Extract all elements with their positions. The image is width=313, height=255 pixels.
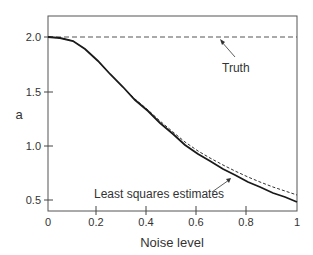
x-tick-1: 1 bbox=[294, 216, 300, 228]
x-tick-0.4: 0.4 bbox=[138, 216, 153, 228]
truth-label: Truth bbox=[222, 61, 250, 75]
x-tick-0: 0 bbox=[45, 216, 51, 228]
estimate-dashed-curve bbox=[48, 37, 297, 195]
estimate-solid-curve bbox=[48, 37, 297, 202]
lse-arrow-head bbox=[226, 178, 231, 183]
y-axis-label: a bbox=[15, 107, 23, 122]
x-tick-0.8: 0.8 bbox=[238, 216, 253, 228]
x-tick-0.2: 0.2 bbox=[88, 216, 103, 228]
x-tick-0.6: 0.6 bbox=[188, 216, 203, 228]
y-tick-0.5: 0.5 bbox=[26, 194, 41, 206]
y-tick-2.0: 2.0 bbox=[26, 31, 41, 43]
lse-label: Least squares estimates bbox=[94, 187, 224, 201]
chart: 2.0 1.5 1.0 0.5 0 0.2 0.4 0.6 0.8 1 Nois… bbox=[0, 0, 313, 255]
y-tick-1.5: 1.5 bbox=[26, 86, 41, 98]
y-tick-1.0: 1.0 bbox=[26, 140, 41, 152]
x-axis-label: Noise level bbox=[140, 235, 204, 250]
truth-arrow-head bbox=[220, 39, 225, 45]
